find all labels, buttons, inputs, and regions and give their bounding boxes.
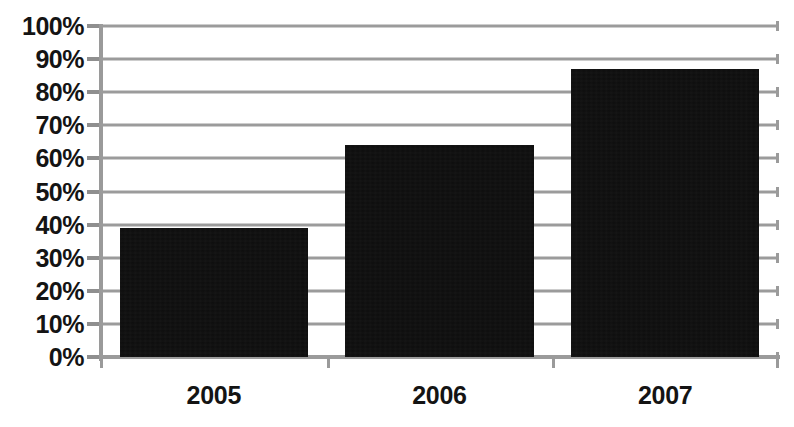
y-axis-tick-label: 90% bbox=[0, 47, 84, 72]
bar bbox=[571, 69, 759, 357]
gridline-end-tick bbox=[776, 286, 779, 296]
gridline-end-tick bbox=[776, 153, 779, 163]
x-axis-tick-label: 2006 bbox=[327, 382, 553, 410]
gridline-end-tick bbox=[776, 21, 779, 31]
bar bbox=[345, 145, 533, 357]
x-axis-tick-label: 2007 bbox=[552, 382, 778, 410]
bar bbox=[120, 228, 308, 357]
bar-chart: 0%10%20%30%40%50%60%70%80%90%100% 200520… bbox=[0, 0, 794, 427]
gridline-end-tick bbox=[776, 187, 779, 197]
y-axis-tick-label: 10% bbox=[0, 311, 84, 336]
gridline-end-tick bbox=[776, 253, 779, 263]
x-axis-category-tick bbox=[776, 357, 779, 368]
gridline bbox=[101, 25, 778, 28]
y-axis-tick-label: 80% bbox=[0, 80, 84, 105]
x-axis-tick-label: 2005 bbox=[101, 382, 327, 410]
gridline bbox=[101, 58, 778, 61]
y-axis-tick-label: 20% bbox=[0, 278, 84, 303]
y-axis-tick-label: 0% bbox=[0, 345, 84, 370]
gridline-end-tick bbox=[776, 319, 779, 329]
gridline-end-tick bbox=[776, 120, 779, 130]
y-axis-tick-label: 60% bbox=[0, 146, 84, 171]
y-axis-tick-label: 70% bbox=[0, 113, 84, 138]
plot-area bbox=[101, 26, 778, 357]
y-axis-tick-label: 30% bbox=[0, 245, 84, 270]
y-axis-tick-label: 50% bbox=[0, 179, 84, 204]
y-axis-tick-label: 100% bbox=[0, 14, 84, 39]
x-axis-category-tick bbox=[100, 357, 103, 368]
y-axis-label-group: 0%10%20%30%40%50%60%70%80%90%100% bbox=[0, 0, 84, 427]
y-axis-tick-label: 40% bbox=[0, 212, 84, 237]
gridline-end-tick bbox=[776, 220, 779, 230]
x-axis-category-tick bbox=[327, 357, 330, 368]
gridline-end-tick bbox=[776, 87, 779, 97]
x-axis-category-tick bbox=[552, 357, 555, 368]
gridline-end-tick bbox=[776, 54, 779, 64]
